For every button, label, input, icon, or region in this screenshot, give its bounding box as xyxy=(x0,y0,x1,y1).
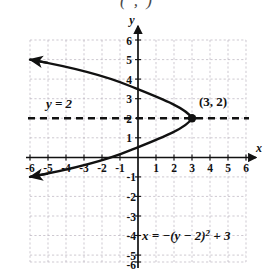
x-tick-label-0: -6 xyxy=(25,162,35,174)
x-tick-label-5: -1 xyxy=(115,162,125,174)
svg-text:x = −(y − 2)2 + 3: x = −(y − 2)2 + 3 xyxy=(141,228,231,244)
y-tick-label-3: 3 xyxy=(126,93,132,105)
equation-tail-text: + 3 xyxy=(210,228,231,243)
x-tick-label-8: 3 xyxy=(189,162,195,174)
y-tick-label-8: -3 xyxy=(126,211,136,223)
parabola-equation-label: x = −(y − 2)2 + 3 xyxy=(141,228,231,244)
x-tick-label-11: 6 xyxy=(243,162,249,174)
y-axis-label: y xyxy=(127,13,135,27)
graph-figure: ( , ) xyxy=(0,0,273,273)
y-tick-label-6: -1 xyxy=(126,171,136,183)
coordinate-plane-svg: -6 -5 -4 -3 -2 -1 1 2 3 4 5 6 6 5 4 3 2 … xyxy=(0,0,273,273)
x-tick-label-7: 2 xyxy=(171,162,177,174)
y-tick-label-7: -2 xyxy=(126,191,136,203)
y-tick-label-1: 5 xyxy=(126,54,132,66)
y-tick-label-5: 1 xyxy=(126,132,132,144)
x-axis-label: x xyxy=(255,141,262,155)
x-tick-label-9: 4 xyxy=(207,162,213,174)
y-tick-label-0: 6 xyxy=(126,35,132,47)
equation-main-text: x = −(y − 2) xyxy=(141,228,206,243)
vertex-point-marker xyxy=(188,114,196,122)
y-tick-label-9: -4 xyxy=(126,230,136,242)
x-tick-label-6: 1 xyxy=(153,162,159,174)
vertex-coordinate-label: (3, 2) xyxy=(199,94,227,109)
line-equation-label: y = 2 xyxy=(44,96,73,111)
x-tick-label-10: 5 xyxy=(225,162,231,174)
x-tick-label-4: -2 xyxy=(97,162,107,174)
y-tick-label-11: -6 xyxy=(126,259,136,271)
